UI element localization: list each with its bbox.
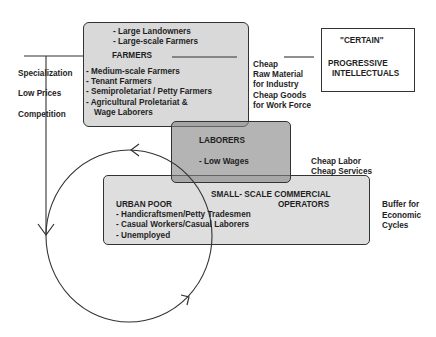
output-line: Raw Material (253, 70, 311, 80)
specialization-label: Specialization (18, 69, 73, 79)
output-line: for Industry (253, 80, 311, 90)
output-line: Cheap Goods (253, 91, 311, 101)
output-line: Cheap (253, 60, 311, 70)
farmers-item: - Tenant Farmers (86, 77, 212, 87)
progressive-label: PROGRESSIVE (328, 59, 388, 69)
urban-poor-items: - Handicraftsmen/Petty Tradesmen - Casua… (116, 210, 251, 241)
laborers-title: LABORERS (199, 136, 245, 146)
farmers-item: - Large Landowners (113, 27, 198, 37)
farmers-outputs: Cheap Raw Material for Industry Cheap Go… (253, 60, 311, 111)
farmers-item: - Medium-scale Farmers (86, 67, 212, 77)
farmers-items: - Medium-scale Farmers - Tenant Farmers … (86, 67, 212, 118)
output-line: Economic (382, 211, 421, 222)
intellectuals-label: INTELLECTUALS (332, 69, 399, 79)
output-line: Cheap Labor (311, 157, 372, 167)
urban-poor-item: - Unemployed (116, 231, 251, 241)
output-line: Buffer for (382, 200, 421, 211)
commercial-title-line1: SMALL- SCALE COMMERCIAL (211, 190, 331, 200)
low-prices-label: Low Prices (18, 89, 61, 99)
commercial-title-line2: OPERATORS (278, 200, 329, 210)
laborers-outputs: Cheap Labor Cheap Services (311, 157, 372, 177)
commercial-output: Buffer for Economic Cycles (382, 200, 421, 232)
farmers-item: - Semiproletariat / Petty Farmers (86, 87, 212, 97)
certain-label: "CERTAIN" (340, 36, 384, 46)
urban-poor-item: - Handicraftsmen/Petty Tradesmen (116, 210, 251, 220)
farmers-title: FARMERS (112, 51, 152, 61)
farmers-item: - Large-scale Farmers (113, 37, 198, 47)
urban-poor-title: URBAN POOR (116, 200, 172, 210)
output-line: Cheap Services (311, 167, 372, 177)
farmers-item: Wage Laborers (86, 108, 212, 118)
farmers-top-items: - Large Landowners - Large-scale Farmers (113, 27, 198, 47)
output-line: for Work Force (253, 101, 311, 111)
urban-poor-item: - Casual Workers/Casual Laborers (116, 220, 251, 230)
competition-label: Competition (18, 110, 66, 120)
low-wages-item: - Low Wages (199, 157, 249, 167)
farmers-item: - Agricultural Proletariat & (86, 98, 212, 108)
output-line: Cycles (382, 221, 421, 232)
